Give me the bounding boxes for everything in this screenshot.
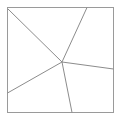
segment-to-top-left-corner	[8, 9, 62, 62]
radial-segments-group	[8, 8, 114, 113]
partitioned-square-diagram	[0, 0, 122, 121]
segment-to-right-edge	[62, 62, 114, 69]
segment-to-left-edge	[8, 62, 63, 93]
segment-to-top-edge	[62, 8, 87, 63]
segment-to-bottom-edge	[62, 62, 72, 113]
figure-canvas	[0, 0, 122, 121]
